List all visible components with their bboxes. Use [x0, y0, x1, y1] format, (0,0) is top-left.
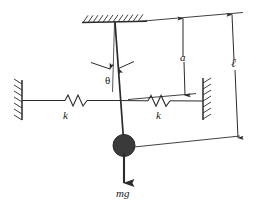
label-spring-constant-left: k [63, 110, 68, 121]
physics-diagram: θ k k a ℓ mg [0, 0, 261, 209]
extension-line-bottom [134, 136, 240, 147]
spring-coil-left [65, 95, 87, 106]
spring-assembly-left [22, 95, 118, 106]
hatched-ceiling [82, 14, 147, 22]
label-spring-constant-right: k [156, 110, 161, 121]
vertical-reference-line [113, 23, 115, 92]
label-theta: θ [105, 75, 110, 86]
extension-line-top [139, 13, 243, 22]
label-dimension-a: a [180, 52, 186, 63]
label-dimension-ell: ℓ [231, 57, 236, 69]
dimension-arrow-ell [232, 15, 238, 139]
hatched-wall-left [14, 79, 22, 120]
label-weight-mg: mg [116, 188, 129, 199]
hatched-wall-right [203, 78, 211, 120]
diagram-canvas [0, 0, 261, 209]
angle-indicator-arrows [91, 62, 134, 70]
pendulum-rod [115, 22, 124, 146]
